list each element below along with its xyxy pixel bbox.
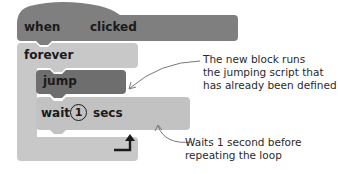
secs-label: secs xyxy=(93,106,123,120)
forever-label: forever xyxy=(24,48,73,62)
annotation-wait: Waits 1 second before repeating the loop xyxy=(185,136,302,162)
annotation-line: has already been defined xyxy=(203,79,337,92)
wait-seconds-input[interactable]: 1 xyxy=(70,104,87,121)
annotation-line: the jumping script that xyxy=(203,66,337,79)
annotation-jump: The new block runs the jumping script th… xyxy=(203,53,337,92)
annotation-line: repeating the loop xyxy=(185,149,302,162)
jump-label: jump xyxy=(43,74,77,88)
annotation-line: Waits 1 second before xyxy=(185,136,302,149)
annotation-line: The new block runs xyxy=(203,53,337,66)
annotation-arrow-jump xyxy=(129,61,200,89)
hat-word-clicked: clicked xyxy=(90,20,137,34)
hat-word-when: when xyxy=(24,20,60,34)
wait-label: wait xyxy=(41,106,70,120)
